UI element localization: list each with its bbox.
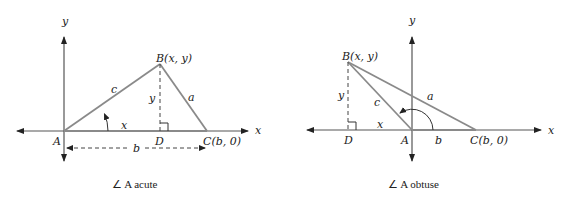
segment-x-label: x [121, 119, 128, 132]
figure-acute: y x b B(x, y) A D C(b, 0) c a x y ∠ A ac… [17, 15, 262, 190]
segment-y-label: y [148, 92, 156, 105]
caption-acute: ∠ A acute [112, 178, 158, 190]
right-angle-mark [160, 123, 168, 131]
figure-obtuse: y x B(x, y) A D C(b, 0) c a b x y ∠ A ob… [307, 14, 555, 190]
right-angle-mark [348, 122, 356, 130]
vertex-a-label: A [52, 135, 61, 148]
vertex-c-label: C(b, 0) [470, 134, 508, 147]
side-c [64, 64, 160, 131]
vertex-d-label: D [343, 134, 353, 147]
side-a-label: a [427, 90, 434, 103]
vertex-b-label: B(x, y) [155, 52, 192, 65]
side-a [160, 64, 207, 131]
vertex-c-label: C(b, 0) [203, 135, 241, 148]
side-a-label: a [188, 91, 195, 104]
x-axis-label: x [548, 124, 555, 137]
vertex-d-label: D [154, 135, 164, 148]
vertex-b-label: B(x, y) [341, 50, 378, 63]
angle-a-arc-icon [105, 114, 109, 131]
angle-a-arc-icon [400, 109, 433, 130]
y-axis-label: y [61, 15, 69, 28]
y-axis-label: y [408, 14, 416, 27]
b-dimension-arrow-left-icon [66, 145, 73, 151]
side-c-label: c [374, 96, 380, 109]
segment-x-label: x [377, 118, 384, 131]
diagram-canvas: y x b B(x, y) A D C(b, 0) c a x y ∠ A ac… [0, 0, 566, 203]
side-c-label: c [111, 83, 117, 96]
side-b-label: b [435, 134, 442, 147]
segment-y-label: y [337, 89, 345, 102]
x-axis-label: x [255, 124, 262, 137]
caption-obtuse: ∠ A obtuse [388, 178, 439, 190]
side-b-label: b [133, 142, 140, 155]
vertex-a-label: A [400, 134, 409, 147]
